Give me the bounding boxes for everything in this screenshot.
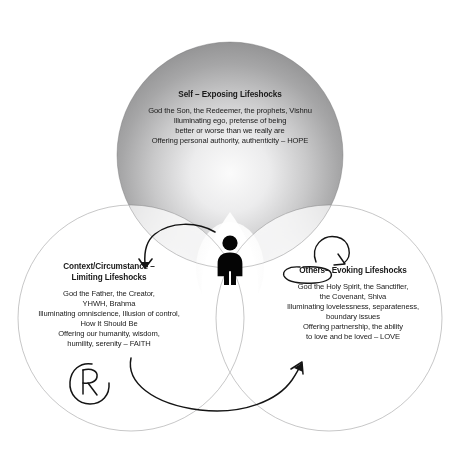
label-others-title: Others– Evoking Lifeshocks — [266, 266, 440, 277]
venn-diagram-canvas: Self – Exposing Lifeshocks God the Son, … — [0, 0, 461, 451]
label-context: Context/Circumstance – Limiting Lifeshoc… — [22, 262, 196, 349]
label-self-title: Self – Exposing Lifeshocks — [130, 90, 330, 101]
label-others-body: God the Holy Spirit, the Sanctifier, the… — [266, 282, 440, 342]
venn-graphics — [0, 0, 461, 451]
label-self: Self – Exposing Lifeshocks God the Son, … — [130, 90, 330, 146]
label-context-title: Context/Circumstance – Limiting Lifeshoc… — [22, 262, 196, 284]
label-others: Others– Evoking Lifeshocks God the Holy … — [266, 266, 440, 342]
label-context-body: God the Father, the Creator, YHWH, Brahm… — [22, 289, 196, 349]
label-self-body: God the Son, the Redeemer, the prophets,… — [130, 106, 330, 146]
